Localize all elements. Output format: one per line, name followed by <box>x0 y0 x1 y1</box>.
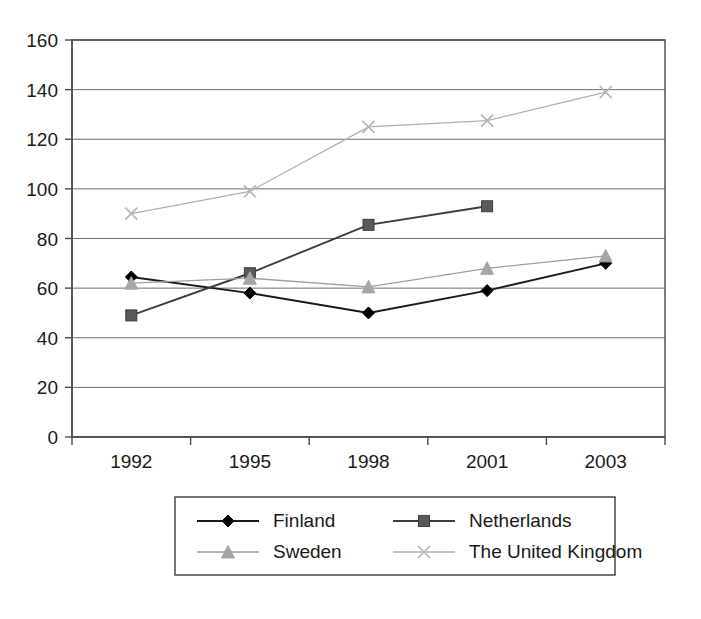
legend-box <box>175 497 615 575</box>
legend-label: Netherlands <box>469 510 571 531</box>
line-chart: 0204060801001201401601992199519982001200… <box>0 0 701 619</box>
data-point-cross-marker <box>244 185 256 197</box>
x-tick-label: 2003 <box>585 451 627 472</box>
data-point-cross-marker <box>600 86 612 98</box>
y-tick-label: 20 <box>37 377 58 398</box>
legend-marker-square-marker <box>419 516 430 527</box>
y-tick-label: 0 <box>47 427 58 448</box>
data-point-diamond-marker <box>244 287 256 299</box>
chart-canvas: 0204060801001201401601992199519982001200… <box>0 0 701 619</box>
data-point-triangle-marker <box>599 249 612 262</box>
data-point-square-marker <box>363 219 374 230</box>
data-point-square-marker <box>126 310 137 321</box>
legend-label: Finland <box>273 510 335 531</box>
y-tick-label: 120 <box>26 129 58 150</box>
y-tick-label: 100 <box>26 179 58 200</box>
y-tick-label: 40 <box>37 328 58 349</box>
legend-label: The United Kingdom <box>469 541 642 562</box>
x-tick-label: 1998 <box>347 451 389 472</box>
series-the-united-kingdom <box>125 86 611 220</box>
y-axis: 020406080100120140160 <box>26 30 72 448</box>
legend: FinlandNetherlandsSwedenThe United Kingd… <box>175 497 642 575</box>
x-axis: 19921995199820012003 <box>72 437 665 472</box>
y-tick-label: 140 <box>26 80 58 101</box>
x-tick-label: 1992 <box>110 451 152 472</box>
legend-label: Sweden <box>273 541 342 562</box>
y-tick-label: 160 <box>26 30 58 51</box>
y-tick-label: 60 <box>37 278 58 299</box>
x-tick-label: 2001 <box>466 451 508 472</box>
series-line <box>131 206 487 315</box>
series-line <box>131 92 605 214</box>
data-point-square-marker <box>482 201 493 212</box>
y-tick-label: 80 <box>37 229 58 250</box>
data-point-diamond-marker <box>481 285 493 297</box>
x-tick-label: 1995 <box>229 451 271 472</box>
data-point-diamond-marker <box>363 307 375 319</box>
gridlines <box>72 40 665 387</box>
data-point-cross-marker <box>125 208 137 220</box>
